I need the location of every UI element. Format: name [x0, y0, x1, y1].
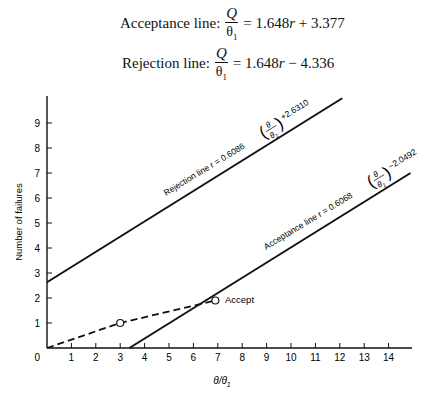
x-tick-label: 1	[69, 352, 75, 363]
x-axis-label-sub: 1	[227, 381, 231, 388]
y-tick-label: 5	[34, 218, 40, 229]
x-axis-label-text: θ/θ	[213, 375, 227, 386]
test-path	[47, 301, 215, 349]
x-ticks: 1234567891011121314	[69, 343, 395, 363]
x-tick-label: 5	[166, 352, 172, 363]
y-tick-label: 2	[34, 293, 40, 304]
x-tick-label: 9	[264, 352, 270, 363]
acceptance-line	[129, 173, 410, 348]
x-tick-label: 8	[239, 352, 245, 363]
x-tick-label: 13	[359, 352, 371, 363]
y-tick-label: 3	[34, 268, 40, 279]
x-tick-label: 10	[285, 352, 297, 363]
sequential-test-chart: 1234567891011121314 123456789 0 Number o…	[0, 0, 432, 398]
x-axis-label: θ/θ1	[213, 375, 231, 388]
data-point-marker	[212, 297, 219, 304]
y-tick-label: 8	[34, 143, 40, 154]
y-tick-label: 7	[34, 168, 40, 179]
rejection-line-label: Rejection line r = 0.6086 ( θ θ1 ) +2.63…	[159, 96, 316, 203]
rejection-label-text: Rejection line r = 0.6086	[162, 141, 247, 198]
x-tick-label: 14	[383, 352, 395, 363]
data-point-marker	[117, 320, 124, 327]
x-tick-label: 12	[334, 352, 346, 363]
x-tick-label: 7	[215, 352, 221, 363]
rejection-label-const: +2.6310	[279, 97, 311, 122]
y-axis-label: Number of failures	[13, 183, 24, 261]
rejection-line	[47, 98, 342, 282]
x-tick-label: 4	[142, 352, 148, 363]
y-tick-label: 1	[34, 318, 40, 329]
origin-label: 0	[34, 352, 40, 363]
x-tick-label: 3	[117, 352, 123, 363]
y-tick-label: 9	[34, 118, 40, 129]
y-ticks: 123456789	[34, 118, 52, 329]
x-tick-label: 2	[93, 352, 99, 363]
axes	[47, 96, 412, 348]
x-tick-label: 6	[191, 352, 197, 363]
x-tick-label: 11	[310, 352, 321, 363]
acceptance-label-const: −2.0492	[386, 146, 418, 171]
accept-annotation: Accept	[225, 294, 254, 305]
chart-lines	[47, 98, 411, 348]
acceptance-label-text: Acceptance line r = 0.6068	[262, 190, 355, 252]
acceptance-line-label: Acceptance line r = 0.6068 ( θ θ1 ) −2.0…	[259, 146, 424, 258]
y-tick-label: 6	[34, 193, 40, 204]
y-tick-label: 4	[34, 243, 40, 254]
